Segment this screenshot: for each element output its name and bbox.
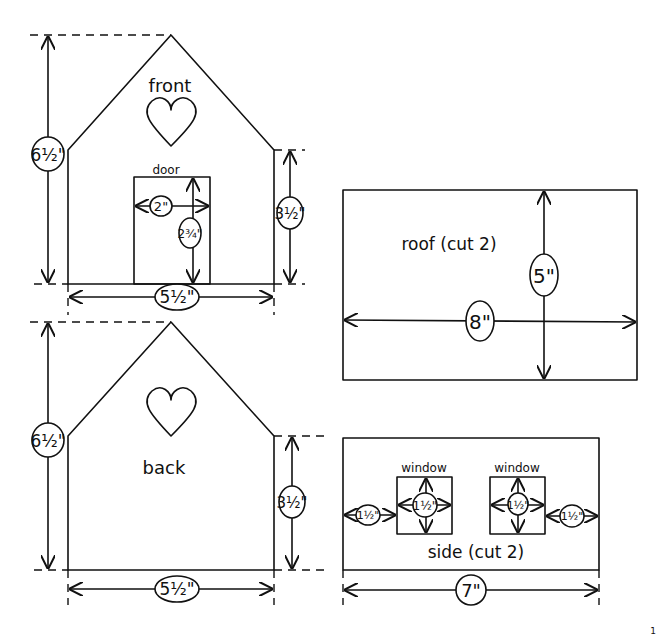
front-piece: 6½" 3½" 5½" front door 2" 2¾" bbox=[30, 35, 305, 315]
window-left-size-label: 1½" bbox=[413, 499, 438, 513]
page-number: 1 bbox=[650, 626, 656, 636]
heart-cutout-icon bbox=[147, 98, 196, 146]
front-wall-height-label: 3½" bbox=[275, 205, 306, 223]
door-height-label: 2¾" bbox=[178, 227, 203, 241]
window-right-size-label: 1½" bbox=[507, 499, 530, 512]
front-title: front bbox=[149, 75, 192, 96]
window-left-label: window bbox=[401, 461, 447, 475]
side-width-label: 7" bbox=[461, 580, 481, 601]
back-piece: 6½" 3½" 5½" back bbox=[30, 322, 330, 605]
side-right-margin-label: 1½" bbox=[561, 510, 584, 523]
side-title: side (cut 2) bbox=[428, 542, 525, 562]
front-height-label: 6½" bbox=[30, 145, 65, 165]
roof-piece: 5" 8" roof (cut 2) bbox=[343, 190, 637, 380]
side-left-margin-label: 1½" bbox=[357, 509, 380, 522]
door-width-label: 2" bbox=[154, 199, 168, 214]
back-wall-height-label: 3½" bbox=[277, 494, 308, 512]
back-height-label: 6½" bbox=[30, 431, 65, 451]
roof-height-label: 5" bbox=[533, 264, 555, 288]
heart-cutout-icon bbox=[147, 388, 196, 436]
back-title: back bbox=[143, 457, 186, 478]
window-right-label: window bbox=[494, 461, 540, 475]
front-width-label: 5½" bbox=[159, 287, 194, 307]
gingerbread-house-template: 6½" 3½" 5½" front door 2" 2¾" 6½" 3½" 5 bbox=[0, 0, 660, 642]
roof-width-label: 8" bbox=[469, 310, 491, 334]
side-piece: 7" side (cut 2) window 1½" window 1½" 1½… bbox=[343, 438, 599, 605]
roof-title: roof (cut 2) bbox=[401, 234, 496, 254]
door-label: door bbox=[152, 163, 179, 177]
back-width-label: 5½" bbox=[159, 579, 194, 599]
